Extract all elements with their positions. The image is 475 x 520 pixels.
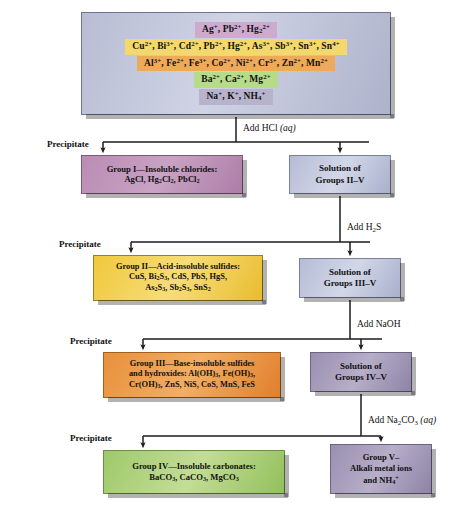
reagent-add-naoh: Add NaOH [357,319,401,329]
precipitate-label-2: Precipitate [59,239,101,249]
ion-row-group1: Ag+, Pb2+, Hg22+ [195,22,277,38]
group-4-line-2: BaCO3, CaCO3, MgCO3 [149,472,239,483]
solution-2-line-2: Groups II–V [315,175,364,186]
group-1-box: Group I—Insoluble chlorides: AgCl, Hg2Cl… [81,155,243,194]
ion-row-group3: Al3+, Fe2+, Fe3+, Co2+, Ni2+, Cr3+, Zn2+… [137,56,335,72]
group-2-line-3: As2S3, Sb2S3, SnS2 [145,283,210,294]
solution-groups-4-5-box: Solution of Groups IV–V [310,352,412,392]
precipitate-label-1: Precipitate [47,139,89,149]
group-1-line-1: Group I—Insoluble chlorides: [107,164,218,175]
group-2-box: Group II—Acid-insoluble sulfides: CuS, B… [93,255,263,301]
group-3-box: Group III—Base-insoluble sulfides and hy… [103,352,281,398]
group-4-box: Group IV—Insoluble carbonates: BaCO3, Ca… [103,450,285,494]
group-5-line-3: and NH4+ [363,474,399,486]
qualitative-analysis-flowchart: Ag+, Pb2+, Hg22+ Cu2+, Bi3+, Cd2+, Pb2+,… [0,0,475,520]
solution-3-line-1: Solution of [329,267,371,278]
reagent-add-na2co3: Add Na2CO3 (aq) [368,415,436,426]
precipitate-label-4: Precipitate [70,433,112,443]
group-2-line-2: CuS, Bi2S3, CdS, PbS, HgS, [129,272,227,283]
group-5-box: Group V– Alkali metal ions and NH4+ [330,444,432,494]
reagent-add-h2s: Add H2S [347,222,381,233]
solution-3-line-2: Groups III–V [324,278,377,289]
solution-4-line-1: Solution of [340,361,382,372]
ion-row-group5: Na+, K+, NH4+ [199,89,272,105]
group-2-line-1: Group II—Acid-insoluble sulfides: [116,262,240,273]
group-5-line-2: Alkali metal ions [350,463,412,474]
precipitate-label-3: Precipitate [70,336,112,346]
group-5-line-1: Group V– [363,452,400,463]
all-cations-box: Ag+, Pb2+, Hg22+ Cu2+, Bi3+, Cd2+, Pb2+,… [81,12,391,115]
reagent-add-hcl: Add HCl (aq) [243,123,296,133]
group-1-line-2: AgCl, Hg2Cl2, PbCl2 [124,174,199,185]
ion-row-group2: Cu2+, Bi3+, Cd2+, Pb2+, Hg2+, As3+, Sb3+… [125,39,346,55]
solution-groups-2-5-box: Solution of Groups II–V [289,155,391,194]
solution-2-line-1: Solution of [319,163,361,174]
group-3-line-1: Group III—Base-insoluble sulfides [130,359,255,370]
solution-groups-3-5-box: Solution of Groups III–V [299,258,401,298]
ion-row-group4: Ba2+, Ca2+, Mg2+ [194,72,277,88]
solution-4-line-2: Groups IV–V [335,372,387,383]
group-4-line-1: Group IV—Insoluble carbonates: [132,461,256,472]
group-3-line-2: and hydroxides: Al(OH)3, Fe(OH)3, [129,369,255,380]
group-3-line-3: Cr(OH)3, ZnS, NiS, CoS, MnS, FeS [129,380,255,391]
